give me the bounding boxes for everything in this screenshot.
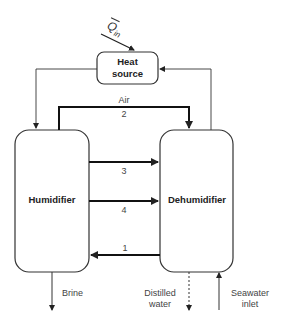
- dehumidifier-to-heat-line: [160, 69, 211, 130]
- stream-2-label: 2: [118, 109, 130, 120]
- heat-source-line1: Heat: [97, 56, 158, 68]
- heat-to-humidifier-line: [36, 69, 97, 128]
- heat-source-label: Heat source: [97, 56, 158, 80]
- stream-4-label: 4: [118, 205, 130, 216]
- diagram-canvas: [0, 0, 281, 333]
- seawater-inlet-label: Seawater inlet: [226, 288, 274, 310]
- stream-3-label: 3: [118, 166, 130, 177]
- distilled-water-label: Distilled water: [136, 288, 184, 310]
- distilled-line1: Distilled: [136, 288, 184, 299]
- seawater-line1: Seawater: [226, 288, 274, 299]
- air-label: Air: [112, 95, 136, 106]
- stream-1-label: 1: [119, 243, 131, 254]
- heat-source-line2: source: [97, 68, 158, 80]
- seawater-line2: inlet: [226, 299, 274, 310]
- distilled-line2: water: [136, 299, 184, 310]
- brine-label: Brine: [62, 288, 96, 299]
- dehumidifier-label: Dehumidifier: [158, 194, 236, 206]
- humidifier-label: Humidifier: [15, 194, 89, 206]
